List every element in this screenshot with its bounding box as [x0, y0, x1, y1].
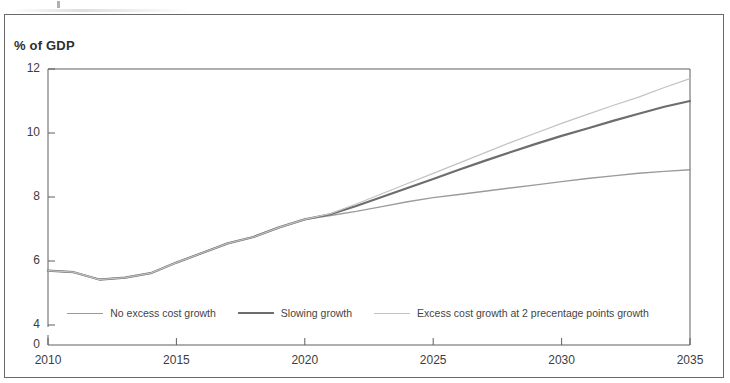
- chart-series: [48, 79, 690, 280]
- y-tick-label: 4: [14, 317, 40, 331]
- series-line-0: [48, 170, 690, 280]
- series-line-1: [48, 101, 690, 280]
- y-tick-label: 0: [14, 337, 40, 351]
- legend-swatch-line-icon: [67, 313, 103, 314]
- legend-label: Slowing growth: [281, 307, 352, 319]
- legend-swatch-line-icon: [374, 313, 410, 314]
- chart-legend: No excess cost growthSlowing growthExces…: [48, 303, 690, 323]
- y-tick-label: 10: [14, 125, 40, 139]
- legend-label: No excess cost growth: [110, 307, 216, 319]
- x-tick-label: 2025: [403, 353, 463, 367]
- legend-swatch-line-icon: [238, 312, 274, 314]
- y-tick-label: 12: [14, 61, 40, 75]
- chart-svg: [0, 0, 730, 383]
- chart-plot-area: 04681012 201020152020202520302035: [0, 0, 730, 383]
- x-tick-label: 2035: [660, 353, 720, 367]
- legend-item: Slowing growth: [238, 307, 352, 319]
- y-tick-label: 6: [14, 253, 40, 267]
- legend-item: No excess cost growth: [67, 307, 216, 319]
- x-tick-label: 2010: [18, 353, 78, 367]
- x-tick-label: 2030: [532, 353, 592, 367]
- legend-label: Excess cost growth at 2 precentage point…: [417, 307, 649, 319]
- x-tick-label: 2020: [275, 353, 335, 367]
- x-tick-label: 2015: [146, 353, 206, 367]
- y-tick-label: 8: [14, 189, 40, 203]
- legend-item: Excess cost growth at 2 precentage point…: [374, 307, 649, 319]
- series-line-2: [48, 79, 690, 280]
